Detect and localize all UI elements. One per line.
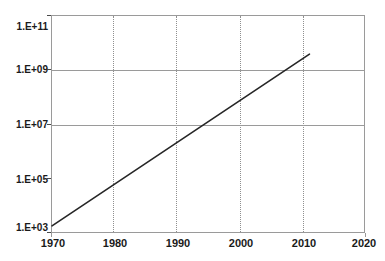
y-axis-tick-label: 1.E+09 (16, 64, 48, 75)
y-axis-tick-label: 1.E+05 (16, 174, 48, 185)
x-axis-tick-label: 2000 (229, 237, 253, 249)
y-axis-tick-label: 1.E+11 (17, 21, 48, 32)
y-axis-tick-label: 1.E+07 (16, 119, 48, 130)
chart-figure: 1.E+11 1.E+09 1.E+07 1.E+05 1.E+03 1970 … (0, 0, 385, 261)
y-axis-tick-label: 1.E+03 (16, 222, 48, 233)
series-layer (52, 16, 366, 234)
x-axis-tick-label: 1980 (103, 237, 127, 249)
x-axis-tick-label: 1970 (41, 237, 65, 249)
x-axis-tick-label: 2010 (292, 237, 316, 249)
x-axis-tick-label: 1990 (166, 237, 190, 249)
series-line-trend (52, 54, 309, 226)
plot-area (51, 15, 365, 233)
x-axis-tick-label: 2020 (352, 237, 376, 249)
